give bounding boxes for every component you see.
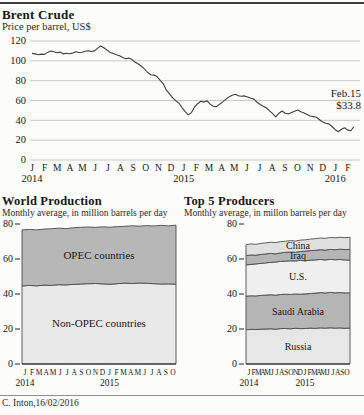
band-label: Non-OPEC countries [52, 317, 146, 329]
credit-line: C. Inton,16/02/2016 [2, 398, 79, 408]
month-tick-label: M [230, 163, 239, 173]
month-tick-label: O [86, 368, 92, 377]
month-tick-label: O [170, 368, 176, 377]
band-label: Russia [285, 341, 312, 352]
month-tick-label: J [245, 163, 249, 173]
month-tick-label: J [66, 368, 69, 377]
world-production-title: World Production [2, 194, 102, 209]
year-tick-label: 2015 [173, 173, 194, 184]
top5-producers-subtitle: Monthly average, in millon barrels per d… [184, 208, 347, 218]
month-tick-label: A [66, 163, 73, 173]
month-tick-label: F [194, 163, 199, 173]
month-tick-label: N [307, 163, 314, 173]
month-tick-label: M [53, 163, 62, 173]
month-tick-label: J [182, 163, 186, 173]
month-tick-label: A [156, 368, 162, 377]
month-tick-label: J [271, 368, 274, 377]
y-tick-label: 80 [3, 218, 13, 229]
month-tick-label: S [79, 368, 83, 377]
month-tick-label: J [24, 368, 27, 377]
year-tick-label: 2015 [296, 378, 315, 388]
y-tick-label: 20 [3, 323, 13, 334]
month-tick-label: J [93, 163, 97, 173]
month-tick-label: D [319, 163, 326, 173]
month-tick-label: M [50, 368, 57, 377]
y-tick-label: 20 [16, 134, 27, 145]
annotation-price: $33.8 [331, 99, 361, 111]
month-tick-label: M [134, 368, 141, 377]
month-tick-label: J [150, 368, 153, 377]
year-tick-label: 2016 [325, 173, 346, 184]
month-tick-label: J [106, 163, 110, 173]
y-tick-label: 20 [227, 323, 237, 334]
y-tick-label: 40 [227, 288, 237, 299]
month-tick-label: F [42, 163, 47, 173]
y-tick-label: 120 [10, 35, 26, 46]
month-tick-label: O [344, 368, 350, 377]
month-tick-label: J [334, 163, 338, 173]
month-tick-label: D [168, 163, 175, 173]
y-tick-label: 0 [21, 154, 26, 165]
month-tick-label: A [269, 163, 276, 173]
month-tick-label: J [258, 163, 262, 173]
band-label: Saudi Arabia [272, 306, 324, 317]
month-tick-label: F [115, 368, 119, 377]
month-tick-label: S [282, 163, 287, 173]
latest-price-annotation: Feb.15 $33.8 [331, 87, 361, 111]
month-tick-label: M [205, 163, 214, 173]
month-tick-label: A [72, 368, 78, 377]
month-tick-label: J [30, 163, 34, 173]
y-tick-label: 100 [10, 55, 26, 66]
month-tick-label: O [294, 163, 301, 173]
y-tick-label: 40 [3, 288, 13, 299]
month-tick-label: A [218, 163, 225, 173]
band-label: OPEC countries [63, 249, 134, 261]
y-tick-label: 60 [227, 253, 237, 264]
month-tick-label: M [36, 368, 43, 377]
month-tick-label: N [93, 368, 99, 377]
month-tick-label: J [59, 368, 62, 377]
month-tick-label: D [100, 368, 106, 377]
month-tick-label: S [130, 163, 135, 173]
month-tick-label: M [78, 163, 87, 173]
month-tick-label: J [143, 368, 146, 377]
month-tick-label: J [248, 368, 251, 377]
y-tick-label: 0 [8, 358, 13, 369]
year-tick-label: 2014 [240, 378, 259, 388]
month-tick-label: M [120, 368, 127, 377]
month-tick-label: F [345, 163, 350, 173]
month-tick-label: J [108, 368, 111, 377]
month-tick-label: S [164, 368, 168, 377]
month-tick-label: A [43, 368, 49, 377]
bottom-divider [0, 395, 364, 396]
year-tick-label: 2014 [22, 173, 44, 184]
month-tick-label: N [155, 163, 162, 173]
month-tick-label: F [30, 368, 34, 377]
y-tick-label: 60 [3, 253, 13, 264]
month-tick-label: O [142, 163, 149, 173]
month-tick-label: J [327, 368, 330, 377]
month-tick-label: A [117, 163, 124, 173]
year-tick-label: 2015 [100, 378, 119, 388]
y-tick-label: 80 [227, 218, 237, 229]
y-tick-label: 60 [16, 95, 27, 106]
oil-infographic: Brent Crude Price per barrel, US$ 020406… [0, 0, 364, 415]
year-tick-label: 2014 [16, 378, 35, 388]
band-label: U.S. [289, 271, 307, 282]
month-tick-label: A [128, 368, 134, 377]
annotation-date: Feb.15 [331, 87, 361, 99]
y-tick-label: 0 [232, 358, 237, 369]
brent-price-line [32, 46, 354, 132]
month-tick-label: J [304, 368, 307, 377]
world-production-subtitle: Monthly average, in million barrels per … [2, 208, 167, 218]
top5-producers-title: Top 5 Producers [184, 194, 275, 209]
y-tick-label: 40 [16, 115, 27, 126]
band-label: China [286, 240, 310, 251]
y-tick-label: 80 [16, 75, 27, 86]
